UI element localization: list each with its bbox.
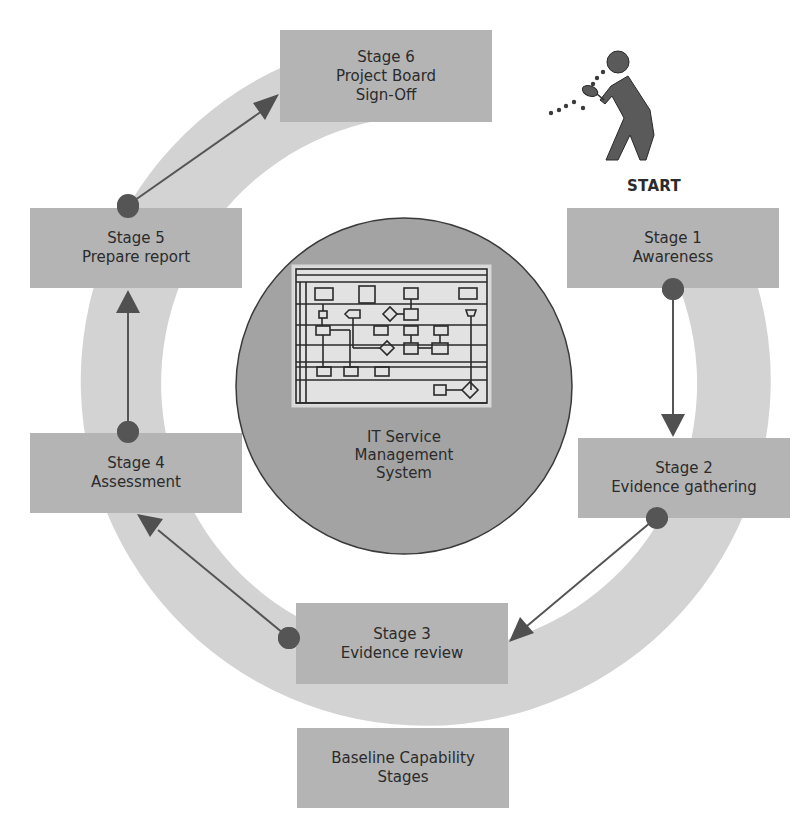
center-label: IT Service Management System [304, 428, 504, 482]
stage-1-box: Stage 1 Awareness [567, 208, 779, 288]
diagram-graphics [0, 0, 808, 833]
center-label-line1: IT Service [304, 428, 504, 446]
stage-1-title: Stage 1 [644, 229, 702, 248]
stage-4-title: Stage 4 [107, 454, 165, 473]
stage-5-title: Stage 5 [107, 229, 165, 248]
stage-3-title: Stage 3 [373, 625, 431, 644]
stage-1-label: Awareness [633, 248, 714, 267]
center-label-line3: System [304, 464, 504, 482]
flowchart-icon [293, 266, 490, 406]
center-label-line2: Management [304, 446, 504, 464]
stage-3-box: Stage 3 Evidence review [296, 603, 508, 684]
stage-3-label: Evidence review [341, 644, 464, 663]
baseline-capability-cycle-diagram: Stage 6 Project Board Sign-Off Stage 5 P… [0, 0, 808, 833]
stage-6-box: Stage 6 Project Board Sign-Off [280, 30, 492, 122]
stage-6-label-line2: Sign-Off [356, 86, 417, 105]
start-figure-icon [549, 51, 654, 160]
stage-2-label: Evidence gathering [611, 478, 757, 497]
stage-2-title: Stage 2 [655, 459, 713, 478]
stage-5-label: Prepare report [82, 248, 190, 267]
stage-4-box: Stage 4 Assessment [30, 433, 242, 513]
stage-5-box: Stage 5 Prepare report [30, 208, 242, 288]
stage-6-label-line1: Project Board [336, 67, 436, 86]
start-label: START [614, 177, 694, 195]
stage-6-title: Stage 6 [357, 48, 415, 67]
stage-2-box: Stage 2 Evidence gathering [578, 438, 790, 518]
legend-box: Baseline Capability Stages [297, 728, 509, 808]
legend-label-line2: Stages [377, 768, 428, 787]
legend-label-line1: Baseline Capability [331, 749, 475, 768]
stage-4-label: Assessment [91, 473, 181, 492]
